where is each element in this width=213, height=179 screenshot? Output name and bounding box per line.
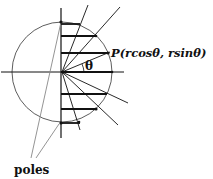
point-label: P(rcosθ, rsinθ) xyxy=(110,46,206,60)
pole-pointers xyxy=(31,22,61,158)
polar-coordinates-diagram: θ P(rcosθ, rsinθ) poles xyxy=(0,0,213,179)
poles-label: poles xyxy=(14,163,50,177)
latitude-chords xyxy=(61,24,112,123)
angle-label: θ xyxy=(85,59,93,73)
angle-arc xyxy=(82,64,84,72)
